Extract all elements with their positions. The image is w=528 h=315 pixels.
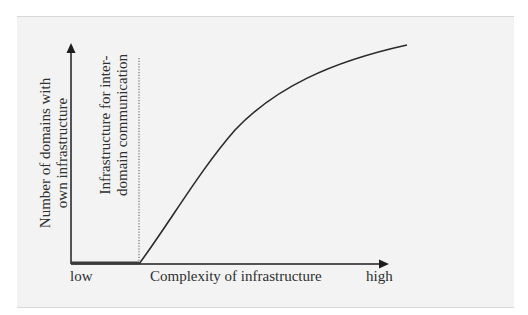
annotation-line2: domain communication (114, 40, 131, 210)
x-axis-label: Complexity of infrastructure (150, 268, 322, 285)
y-axis-label-line1: Number of domains with (37, 63, 54, 243)
y-axis-label-line2: own infrastructure (54, 63, 71, 243)
annotation-line1: Infrastructure for inter- (97, 40, 114, 210)
y-axis-arrow-icon (67, 43, 76, 53)
y-axis-label: Number of domains with own infrastructur… (37, 63, 73, 243)
x-low-label: low (70, 268, 93, 285)
x-high-label: high (366, 268, 393, 285)
growth-curve (139, 45, 407, 264)
threshold-annotation: Infrastructure for inter- domain communi… (97, 40, 133, 210)
